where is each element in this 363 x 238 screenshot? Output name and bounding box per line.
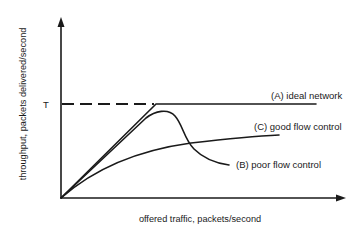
label-curve-b: (B) poor flow control [236,159,321,170]
capacity-tick-label: T [43,99,49,110]
y-axis-arrow-icon [58,17,65,27]
curve-a-ideal-network [61,104,316,198]
label-curve-c: (C) good flow control [254,121,342,132]
curve-b-poor-flow-control [61,111,229,198]
x-axis-arrow-icon [336,195,346,202]
y-axis-title: throughput, packets delivered/second [18,28,28,181]
throughput-diagram: T (A) ideal network (C) good flow contro… [0,0,363,238]
x-axis-title: offered traffic, packets/second [139,214,261,224]
label-curve-a: (A) ideal network [271,90,343,101]
